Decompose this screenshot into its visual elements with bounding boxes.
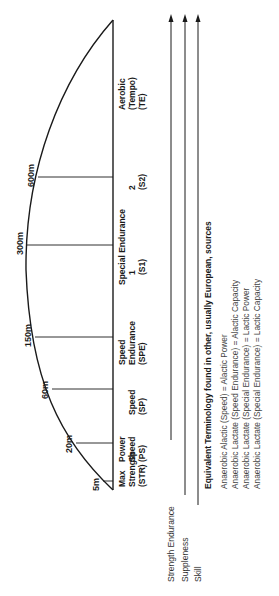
zone-label: (SP) [137,398,147,415]
quality-label: Strength Endurance [166,506,176,582]
energy-curve [26,20,113,490]
zone-label: Speed [127,389,137,415]
zone-label: (S2) [137,174,147,190]
zone-label: (STR) [137,464,147,487]
equivalent-item: Anaerobic Alactic (Speed) = Alactic Powe… [219,334,229,489]
zone-label: (Tempo) [127,77,137,110]
zone-label: (PS) [137,445,147,462]
equivalent-item: Anaerobic Lactate (Special Endurance) = … [241,287,251,489]
equivalent-heading: Equivalent Terminology found in other, u… [203,221,213,489]
zone-label: Special Endurance [117,209,127,285]
zone-label: Endurance [127,321,137,365]
zone-labels: MaxStrength(STR)PowerSpeed(PS)Speed(SP)S… [117,77,147,487]
arrow-head-icon [196,14,201,22]
quality-label: Skill [193,566,203,582]
zone-label: (TE) [137,93,147,110]
zone-label: Power [117,436,127,462]
equivalent-item: Anaerobic Lactate (Speed Endurance) = Al… [230,279,240,489]
zone-label: (SPE) [137,342,147,365]
arrow-head-icon [169,14,174,22]
training-zones-diagram: 5m20m60m150m300m600m MaxStrength(STR)Pow… [0,0,279,596]
quality-arrows: Strength EnduranceSupplenessSkill [166,14,203,582]
distance-label: 600m [26,164,36,187]
distance-label: 60m [40,381,50,399]
distance-label: 20m [64,435,74,453]
arrow-head-icon [183,14,188,22]
distance-label: 5m [91,478,101,491]
distance-labels: 5m20m60m150m300m600m [15,164,101,491]
zone-label: Max [117,470,127,487]
zone-label: Speed [127,436,137,462]
zone-label: Speed [117,339,127,365]
quality-label: Suppleness [180,538,190,582]
distance-label: 300m [15,232,25,255]
zone-label: 2 [127,185,137,190]
equivalent-item: Anaerobic Lactate (Special Endurance) = … [252,278,262,489]
zone-label: Aerobic [117,78,127,110]
equivalent-terminology: Equivalent Terminology found in other, u… [203,221,262,489]
distance-label: 150m [23,324,33,347]
zone-label: 1 [127,270,137,275]
zone-label: (S1) [137,259,147,275]
